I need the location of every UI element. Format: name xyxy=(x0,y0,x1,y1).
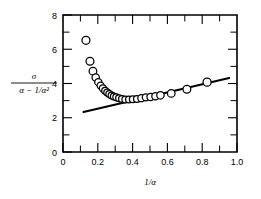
x-axis-label-text: 1/α xyxy=(144,177,156,187)
data-point xyxy=(157,92,164,99)
x-tick-label: 0.8 xyxy=(196,157,209,167)
y-tick-label: 8 xyxy=(52,11,57,21)
data-point xyxy=(183,85,191,93)
x-tick-label: 0 xyxy=(60,157,65,167)
x-tick-label: 0.2 xyxy=(92,157,105,167)
chart-svg: 0 0.2 0.4 0.6 0.8 1.0 8 6 4 2 0 σ α − 1/… xyxy=(0,0,261,199)
y-axis-label-numerator: σ xyxy=(32,71,37,81)
data-point xyxy=(167,90,175,98)
data-point xyxy=(203,78,211,86)
x-tick-label: 0.4 xyxy=(126,157,139,167)
y-tick-label: 4 xyxy=(52,79,57,89)
data-point xyxy=(86,57,94,65)
y-tick-label: 2 xyxy=(52,113,57,123)
x-axis-label: 1/α xyxy=(144,177,156,187)
x-tick-label: 0.6 xyxy=(161,157,174,167)
y-axis-label-denominator: α − 1/α² xyxy=(19,85,49,95)
chart-figure: 0 0.2 0.4 0.6 0.8 1.0 8 6 4 2 0 σ α − 1/… xyxy=(0,0,261,199)
data-point xyxy=(82,36,90,44)
y-tick-label: 0 xyxy=(52,148,57,158)
x-tick-label: 1.0 xyxy=(231,157,244,167)
y-tick-label: 6 xyxy=(52,45,57,55)
